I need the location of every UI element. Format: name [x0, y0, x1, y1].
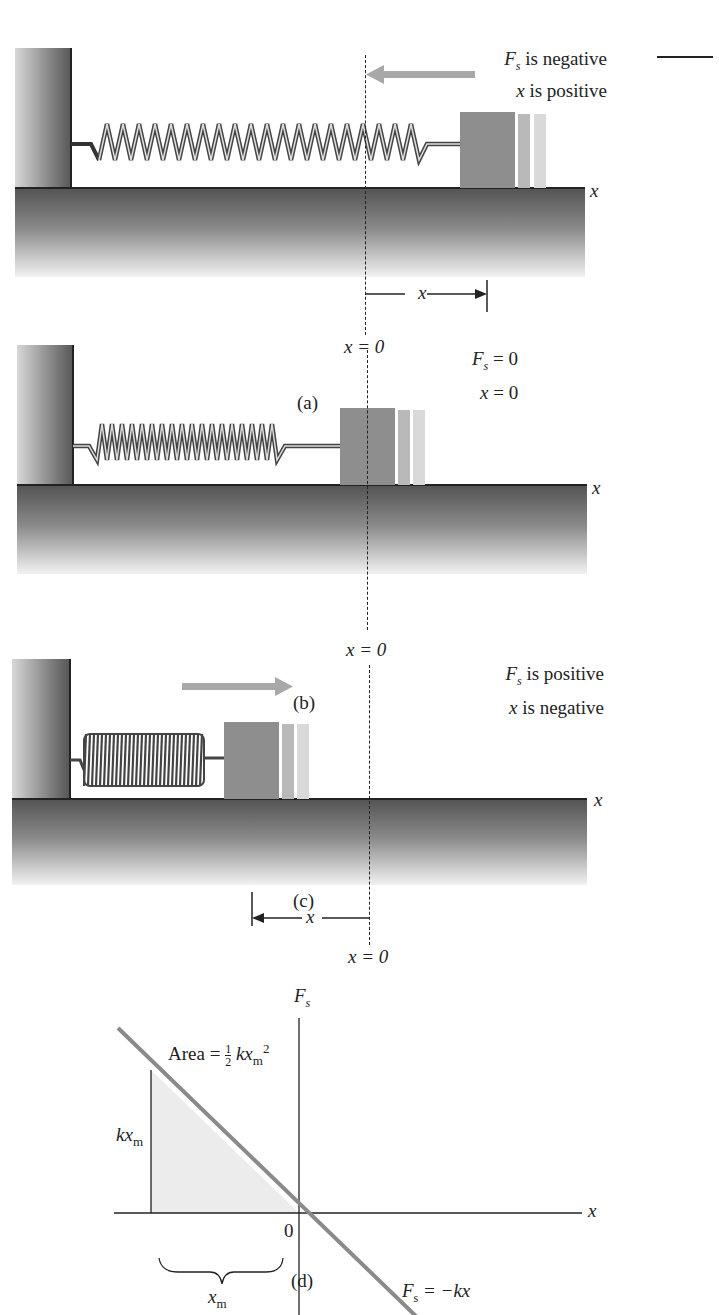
dash-mark [657, 56, 713, 58]
axis-label-x: x [590, 180, 598, 202]
origin-label: 0 [284, 1220, 294, 1242]
height-label: kxm [116, 1124, 143, 1153]
force-arrowhead [275, 677, 295, 697]
ground [17, 484, 587, 574]
panel-a: Fs is negative x is positive x x x = 0 (… [0, 0, 719, 300]
axis-label-x: x [594, 789, 602, 811]
block [460, 112, 515, 188]
force-displacement-graph [0, 880, 719, 1309]
caption-d: (d) [291, 1270, 313, 1292]
displacement-sign-label: x is negative [470, 697, 604, 719]
spring-relaxed [73, 420, 353, 480]
ground [12, 798, 587, 885]
line-equation-label: Fs = −kx [402, 1280, 470, 1309]
block-motion-trail [282, 724, 294, 799]
force-arrowhead [366, 65, 386, 85]
block-motion-trail [518, 114, 530, 188]
spring-stretched [71, 120, 471, 180]
axis-label-x: x [592, 477, 600, 499]
area-label: Area = 12 kxm2 [168, 1038, 269, 1072]
block-motion-trail [534, 114, 546, 188]
y-axis-label: Fs [294, 985, 310, 1014]
block [224, 722, 279, 799]
force-arrow-right [182, 683, 277, 690]
block-motion-trail [398, 410, 410, 485]
panel-c: Fs is positive x is negative x x x = 0 [0, 600, 719, 900]
force-label: Fs is negative [470, 48, 607, 77]
width-label: xm [208, 1286, 227, 1315]
force-label: Fs is positive [470, 663, 604, 692]
graph-d: Fs x 0 Area = 12 kxm2 kxm xm Fs = −kx [0, 880, 719, 1309]
x-axis-label: x [588, 1200, 596, 1222]
displacement-label: x = 0 [480, 382, 518, 404]
equilibrium-line [367, 350, 368, 630]
force-arrow-left [378, 71, 475, 78]
block-motion-trail [297, 724, 309, 799]
panel-b: Fs = 0 x = 0 x x = 0 (b) [0, 300, 719, 600]
ground [15, 187, 585, 277]
force-label: Fs = 0 [472, 348, 518, 377]
displacement-sign-label: x is positive [470, 80, 607, 102]
block-motion-trail [413, 410, 425, 485]
spring-compressed [70, 730, 230, 790]
